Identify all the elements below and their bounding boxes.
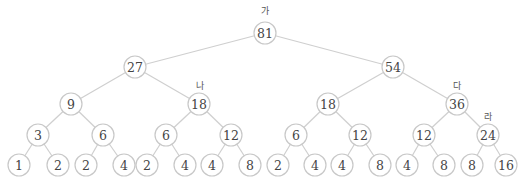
node-value: 81 bbox=[257, 26, 273, 41]
node-value: 2 bbox=[274, 158, 282, 173]
tree-node: 6 bbox=[155, 124, 177, 146]
node-value: 54 bbox=[385, 60, 401, 75]
node-value: 24 bbox=[480, 128, 496, 143]
node-tag-label: 라 bbox=[484, 112, 493, 122]
binary-tree-diagram: 8127549181836366126121224122424482448488… bbox=[0, 0, 523, 183]
tree-node: 4 bbox=[113, 154, 135, 176]
node-value: 2 bbox=[143, 158, 151, 173]
node-value: 8 bbox=[246, 158, 254, 173]
tree-node: 12 bbox=[349, 124, 371, 146]
node-tag-label: 나 bbox=[196, 81, 204, 91]
tree-node: 12 bbox=[413, 124, 435, 146]
tree-node: 8 bbox=[461, 154, 483, 176]
tree-node: 4 bbox=[304, 154, 326, 176]
tree-node: 2 bbox=[136, 154, 158, 176]
tree-node: 1 bbox=[8, 154, 30, 176]
node-value: 4 bbox=[338, 158, 346, 173]
node-tag-label: 다 bbox=[453, 81, 462, 91]
tree-node: 16 bbox=[495, 154, 517, 176]
node-value: 18 bbox=[320, 97, 336, 112]
node-value: 2 bbox=[82, 158, 90, 173]
tree-node: 4 bbox=[174, 154, 196, 176]
tree-node: 6 bbox=[285, 124, 307, 146]
tree-node: 12 bbox=[220, 124, 242, 146]
tree-node: 8 bbox=[239, 154, 261, 176]
node-value: 6 bbox=[292, 128, 300, 143]
tree-node: 3 bbox=[27, 124, 49, 146]
node-value: 9 bbox=[67, 97, 75, 112]
node-value: 6 bbox=[162, 128, 170, 143]
tree-node: 2 bbox=[75, 154, 97, 176]
tree-node: 24 bbox=[477, 124, 499, 146]
tree-node: 4 bbox=[201, 154, 223, 176]
tree-node: 81 bbox=[254, 22, 276, 44]
node-value: 18 bbox=[191, 97, 207, 112]
node-value: 4 bbox=[403, 158, 411, 173]
tree-edge bbox=[135, 33, 265, 67]
tree-canvas: 8127549181836366126121224122424482448488… bbox=[0, 0, 523, 183]
node-value: 12 bbox=[223, 128, 239, 143]
node-value: 4 bbox=[181, 158, 189, 173]
node-value: 8 bbox=[376, 158, 384, 173]
tree-node: 18 bbox=[188, 93, 210, 115]
nodes-layer: 8127549181836366126121224122424482448488… bbox=[8, 22, 517, 176]
tree-node: 18 bbox=[317, 93, 339, 115]
tree-node: 6 bbox=[92, 124, 114, 146]
node-value: 4 bbox=[208, 158, 216, 173]
node-value: 8 bbox=[440, 158, 448, 173]
node-value: 4 bbox=[120, 158, 128, 173]
tree-node: 4 bbox=[331, 154, 353, 176]
tree-node: 8 bbox=[433, 154, 455, 176]
node-value: 12 bbox=[416, 128, 432, 143]
tree-node: 9 bbox=[60, 93, 82, 115]
node-tag-label: 가 bbox=[261, 6, 269, 16]
tree-node: 8 bbox=[369, 154, 391, 176]
tree-node: 36 bbox=[446, 93, 468, 115]
tree-node: 4 bbox=[396, 154, 418, 176]
node-value: 3 bbox=[34, 128, 42, 143]
node-value: 6 bbox=[99, 128, 107, 143]
node-value: 16 bbox=[498, 158, 514, 173]
node-value: 12 bbox=[352, 128, 368, 143]
tree-node: 2 bbox=[47, 154, 69, 176]
tree-edge bbox=[265, 33, 393, 67]
node-value: 1 bbox=[15, 158, 23, 173]
node-value: 4 bbox=[311, 158, 319, 173]
node-value: 8 bbox=[468, 158, 476, 173]
edges-layer bbox=[19, 33, 506, 165]
tree-node: 2 bbox=[267, 154, 289, 176]
node-value: 2 bbox=[54, 158, 62, 173]
node-value: 36 bbox=[449, 97, 465, 112]
tree-node: 27 bbox=[124, 56, 146, 78]
tree-node: 54 bbox=[382, 56, 404, 78]
node-value: 27 bbox=[127, 60, 143, 75]
